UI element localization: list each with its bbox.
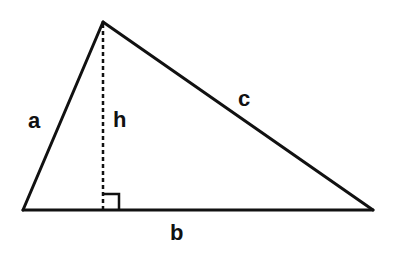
label-a: a <box>28 108 41 133</box>
side-c <box>103 22 373 210</box>
label-c: c <box>238 86 250 111</box>
label-h: h <box>113 107 126 132</box>
right-angle-marker <box>103 194 119 210</box>
triangle-diagram: a h c b <box>0 0 393 254</box>
label-b: b <box>170 220 183 245</box>
